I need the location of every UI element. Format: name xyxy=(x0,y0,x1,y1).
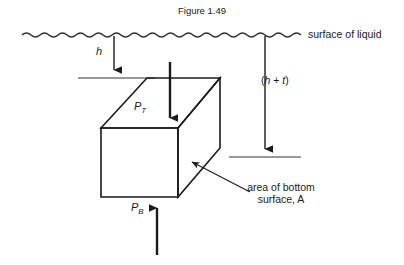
pressure-top-label: PT xyxy=(134,100,146,115)
depth-h-plus-t-label: (h + t) xyxy=(261,74,289,86)
liquid-surface-line xyxy=(22,33,301,37)
area-label-line-1: area of bottom xyxy=(247,181,315,193)
surface-of-liquid-label: surface of liquid xyxy=(308,28,382,40)
area-label-line-2: surface, A xyxy=(258,193,305,205)
block-front-face xyxy=(101,128,178,197)
area-of-bottom-surface-label: area of bottomsurface, A xyxy=(221,181,341,205)
block-right-face xyxy=(178,78,220,197)
depth-h-label: h xyxy=(96,45,102,58)
figure-caption: Figure 1.49 xyxy=(0,6,404,17)
plus-sign: + xyxy=(270,74,282,86)
block-top-face xyxy=(101,78,220,128)
paren-close: ) xyxy=(285,74,289,86)
pressure-bottom-label: PB xyxy=(131,201,144,216)
pressure-bottom-subscript: B xyxy=(138,207,143,216)
pressure-top-subscript: T xyxy=(141,106,146,115)
figure-container: Figure 1.49 surface of liquid h (h + t) … xyxy=(0,0,404,265)
